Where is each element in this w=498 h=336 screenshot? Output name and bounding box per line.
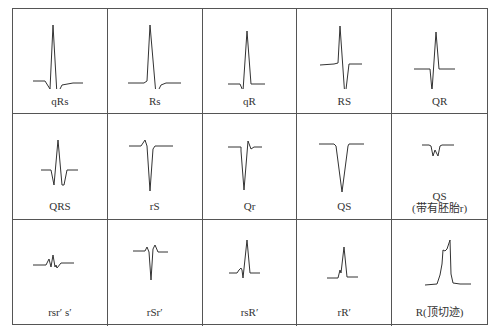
waveform-RS (297, 9, 392, 89)
waveform-label: R(顶切迹) (392, 306, 487, 318)
waveform-rS (108, 114, 203, 194)
waveform-qR (203, 9, 298, 89)
cell-Qr: Qr (203, 114, 298, 220)
cell-rS: rS (108, 114, 203, 220)
qrs-morphology-grid: qRs Rs qR RS QR QRS rS Qr QS QS (带有胚胎r) (12, 8, 488, 325)
cell-RS: RS (297, 9, 392, 114)
cell-rSr-prime: rSr′ (108, 220, 203, 326)
cell-QS-embryonic-r: QS (带有胚胎r) (392, 114, 487, 220)
cell-rR-prime: rR′ (297, 220, 392, 326)
waveform-QR (392, 9, 487, 89)
waveform-QS (297, 114, 392, 194)
cell-rsr-prime-s-prime: rsr′ s′ (13, 220, 108, 326)
waveform-rsr-prime-s-prime (13, 220, 108, 300)
waveform-label: rS (108, 200, 202, 212)
waveform-label: qRs (13, 95, 107, 107)
waveform-label: Rs (108, 95, 202, 107)
cell-R-notched-top: R(顶切迹) (392, 220, 487, 326)
waveform-rR-prime (297, 220, 392, 300)
cell-QRS: QRS (13, 114, 108, 220)
waveform-rSr-prime (108, 220, 203, 300)
waveform-rsR-prime (203, 220, 298, 300)
cell-qR: qR (203, 9, 298, 114)
waveform-label: QS (392, 190, 487, 202)
waveform-R-notched-top (392, 220, 487, 300)
waveform-label: QRS (13, 200, 107, 212)
cell-qRs: qRs (13, 9, 108, 114)
waveform-label: RS (297, 95, 391, 107)
waveform-label: rR′ (297, 306, 391, 318)
waveform-QRS (13, 114, 108, 194)
waveform-label: Qr (203, 200, 297, 212)
waveform-label: qR (203, 95, 297, 107)
waveform-Rs (108, 9, 203, 89)
waveform-label: rsR′ (203, 306, 297, 318)
cell-QS: QS (297, 114, 392, 220)
waveform-label: QS (297, 200, 391, 212)
waveform-QS-embryonic-r (392, 114, 487, 194)
waveform-label: rSr′ (108, 306, 202, 318)
waveform-label: QR (392, 95, 487, 107)
waveform-Qr (203, 114, 298, 194)
cell-rsR-prime: rsR′ (203, 220, 298, 326)
cell-QR: QR (392, 9, 487, 114)
cell-Rs: Rs (108, 9, 203, 114)
waveform-sublabel: (带有胚胎r) (392, 202, 487, 214)
waveform-qRs (13, 9, 108, 89)
waveform-label: rsr′ s′ (13, 306, 107, 318)
